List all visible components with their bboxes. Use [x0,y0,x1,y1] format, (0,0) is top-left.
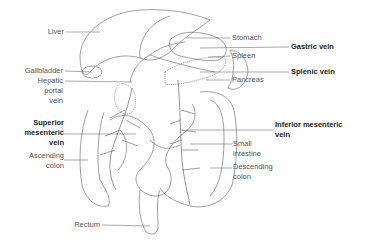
label-hepatic-portal-vein-line2: portal [8,86,63,96]
liver-shape [80,10,210,75]
stomach-shape [169,32,226,60]
label-gallbladder: Gallbladder [8,66,63,76]
label-ascending-colon-line1: Ascending [4,151,64,161]
label-gastric-vein: Gastric vein [291,42,334,52]
label-small-intestine-line1: Small [233,139,252,149]
ascending-colon-shape [80,110,109,206]
gallbladder-leader [65,71,92,72]
descending-colon-shape [160,92,237,207]
label-stomach: Stomach [232,33,262,43]
gastric-vein-leader [200,47,289,48]
label-liver: Liver [26,27,64,37]
label-descending-colon-line1: Descending [233,162,273,172]
label-hepatic-portal-vein-line3: vein [8,96,63,106]
label-spleen: Spleen [232,51,255,61]
hepatic-portal-vein-leader [65,81,132,82]
superior-mesenteric-vein-shape [110,88,132,190]
label-small-intestine-line2: intestine [233,149,261,159]
label-splenic-vein: Splenic vein [291,67,335,77]
label-superior-mesenteric-vein-line2: mesenteric [4,128,64,138]
label-descending-colon-line2: colon [233,172,251,182]
label-hepatic-portal-vein-line1: Hepatic [8,76,63,86]
hepatic-portal-diagram: Liver Gallbladder Hepatic portal vein Su… [0,0,366,242]
rectum-shape [139,190,160,234]
inferior-mesenteric-vein-shape [178,80,190,205]
label-inferior-mesenteric-vein-line1: Inferior mesenteric [275,120,343,130]
label-inferior-mesenteric-vein-line2: vein [275,130,290,140]
label-rectum: Rectum [50,220,100,230]
label-pancreas: Pancreas [232,75,264,85]
label-ascending-colon-line2: colon [4,161,64,171]
label-superior-mesenteric-vein-line1: Superior [4,118,64,128]
label-superior-mesenteric-vein-line3: vein [4,138,64,148]
spleen-leader [208,56,230,57]
pancreas-shape [165,57,226,84]
